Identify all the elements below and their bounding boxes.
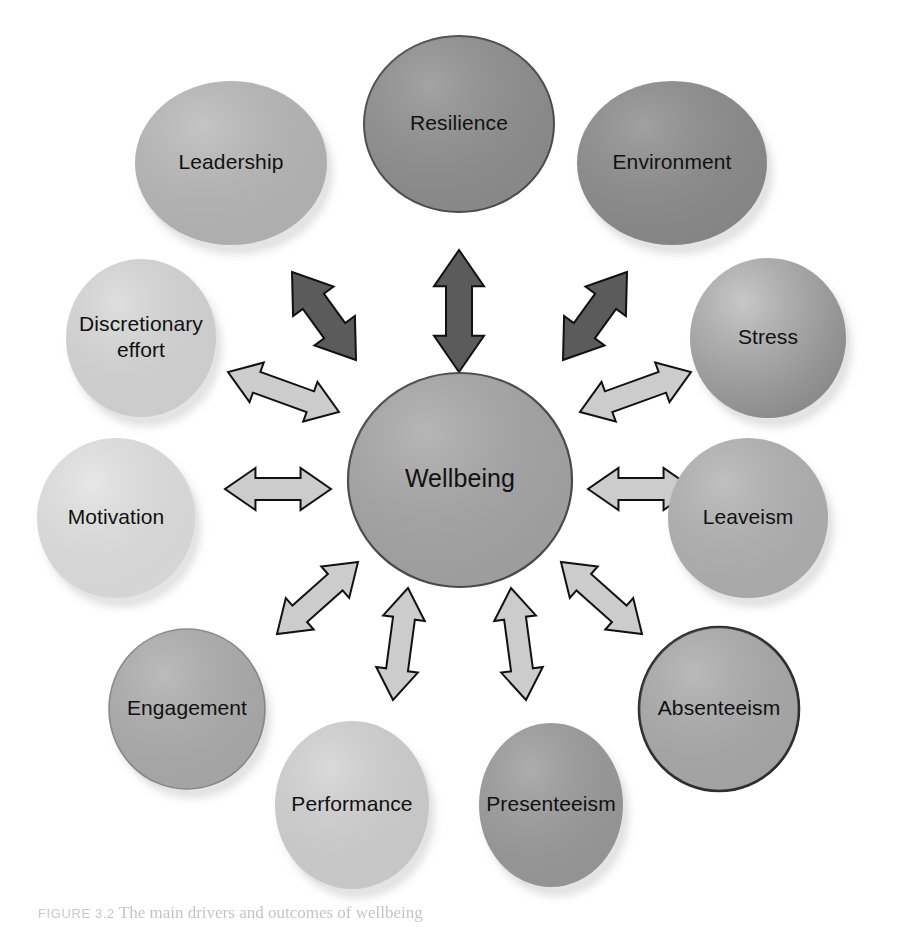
node-label: effort (117, 338, 165, 361)
node-label: Discretionary (79, 312, 203, 335)
node-resilience[interactable]: Resilience (364, 36, 554, 212)
node-label: Presenteeism (486, 792, 616, 815)
figure-caption: FIGURE 3.2 The main drivers and outcomes… (38, 903, 423, 923)
node-label: Leadership (179, 150, 284, 173)
node-label: Leaveism (703, 505, 794, 528)
node-wellbeing[interactable]: Wellbeing (348, 373, 572, 587)
figure-number: FIGURE 3.2 (38, 906, 115, 921)
node-label: Absenteeism (658, 696, 781, 719)
figure-page: LeadershipResilienceEnvironmentDiscretio… (0, 0, 907, 927)
node-label: Resilience (410, 111, 508, 134)
node-label: Environment (613, 150, 732, 173)
figure-caption-text: The main drivers and outcomes of wellbei… (119, 903, 423, 922)
node-label: Motivation (68, 505, 165, 528)
node-label: Stress (738, 325, 798, 348)
node-label: Engagement (127, 696, 247, 719)
node-label: Performance (291, 792, 412, 815)
node-absenteeism[interactable]: Absenteeism (639, 627, 799, 791)
node-label: Wellbeing (405, 464, 515, 492)
wellbeing-relationship-diagram: LeadershipResilienceEnvironmentDiscretio… (0, 0, 907, 927)
figure-caption-area: FIGURE 3.2 The main drivers and outcomes… (0, 897, 907, 927)
